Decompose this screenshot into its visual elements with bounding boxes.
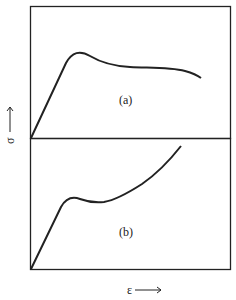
curve-b (31, 146, 181, 269)
y-axis-label: σ (3, 107, 17, 144)
curve-a (31, 53, 201, 138)
panel-a-label: (a) (119, 93, 132, 107)
epsilon-symbol: ε (127, 283, 132, 297)
panel-b-frame (31, 139, 231, 270)
panel-b-label: (b) (119, 225, 133, 239)
stress-strain-figure: (a) (b) σ ε (0, 0, 236, 300)
sigma-symbol: σ (3, 137, 17, 144)
x-axis-label: ε (127, 283, 161, 297)
